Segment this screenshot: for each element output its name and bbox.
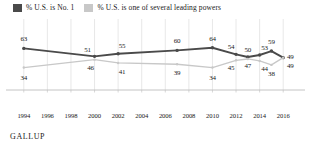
data-label: 50 [244, 47, 251, 54]
legend-item-us-is-no-1: % U.S. is No. 1 [13, 4, 74, 12]
legend-label: % U.S. is No. 1 [26, 4, 74, 12]
data-label: 60 [174, 38, 181, 45]
data-label: 55 [119, 42, 126, 49]
chart-plot-area: 6351556064545053594934464139344547443849 [0, 18, 309, 112]
x-tick-label: 1996 [41, 112, 54, 119]
data-label: 34 [20, 74, 27, 81]
data-point-marker [211, 66, 213, 68]
x-axis-tick-labels: 1994199619982000200220042006200820102012… [0, 112, 309, 126]
x-tick-label: 2004 [135, 112, 148, 119]
data-point-marker [235, 59, 237, 61]
data-point-marker [117, 62, 119, 64]
data-point-marker [258, 60, 260, 62]
x-tick-label: 2012 [230, 112, 243, 119]
x-tick-label: 1994 [17, 112, 30, 119]
data-label: 39 [174, 70, 181, 77]
data-point-marker [282, 56, 284, 58]
data-point-marker [93, 58, 95, 60]
data-point-marker [247, 58, 249, 60]
data-label: 41 [119, 68, 126, 75]
legend-swatch-icon [84, 4, 93, 12]
data-point-marker [116, 52, 119, 55]
data-label: 64 [209, 35, 216, 42]
data-point-marker [93, 55, 96, 58]
data-label: 54 [228, 44, 235, 51]
data-label: 45 [228, 65, 235, 72]
data-label: 49 [287, 53, 294, 60]
data-point-marker [175, 49, 178, 52]
data-label: 38 [268, 70, 275, 77]
data-label: 59 [268, 39, 275, 46]
data-point-marker [23, 66, 25, 68]
legend-label: % U.S. is one of several leading powers [97, 4, 221, 12]
data-label: 63 [20, 36, 27, 43]
x-tick-label: 2014 [253, 112, 266, 119]
legend-item-one-of-several-leading-powers: % U.S. is one of several leading powers [84, 4, 221, 12]
x-tick-label: 2000 [88, 112, 101, 119]
data-label: 51 [84, 47, 91, 54]
data-label: 46 [87, 64, 94, 71]
data-point-marker [270, 64, 272, 66]
data-point-marker [176, 63, 178, 65]
data-point-marker [211, 46, 214, 49]
data-point-marker [258, 53, 261, 56]
data-label: 53 [261, 45, 268, 52]
data-label: 34 [209, 74, 216, 81]
data-label: 49 [287, 62, 294, 69]
x-tick-label: 2008 [182, 112, 195, 119]
x-tick-label: 2016 [277, 112, 290, 119]
x-tick-label: 2010 [206, 112, 219, 119]
data-point-marker [234, 53, 237, 56]
data-label: 44 [261, 66, 268, 73]
legend-swatch-icon [13, 4, 22, 12]
chart-figure: % U.S. is No. 1 % U.S. is one of several… [0, 0, 309, 153]
data-label: 47 [244, 63, 251, 70]
x-tick-label: 1998 [65, 112, 78, 119]
source-label: GALLUP [10, 132, 45, 141]
x-tick-label: 2006 [159, 112, 172, 119]
data-point-marker [22, 47, 25, 50]
data-point-marker [270, 49, 273, 52]
x-tick-label: 2002 [112, 112, 125, 119]
chart-legend: % U.S. is No. 1 % U.S. is one of several… [13, 4, 221, 12]
